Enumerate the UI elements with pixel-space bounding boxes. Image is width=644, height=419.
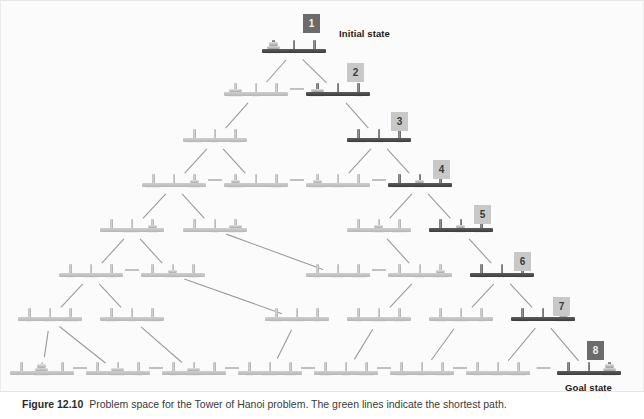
peg-base: [557, 371, 621, 375]
peg-base: [265, 317, 329, 321]
step-badge-7: 7: [553, 297, 570, 316]
peg-base: [306, 92, 370, 96]
peg-group: [142, 169, 206, 187]
hanoi-state: [429, 303, 493, 325]
peg-group: [224, 78, 288, 96]
peg-group: [390, 357, 454, 375]
edge-layer: [1, 1, 644, 392]
hanoi-state: [238, 357, 302, 379]
hanoi-state: [557, 357, 621, 379]
step-badge-8: 8: [587, 341, 604, 360]
peg-base: [183, 138, 247, 142]
disk: [37, 364, 46, 367]
peg-base: [224, 92, 288, 96]
peg-base: [390, 371, 454, 375]
peg-base: [347, 138, 411, 142]
peg-group: [10, 357, 74, 375]
hanoi-state: [388, 259, 452, 281]
hanoi-state: [265, 303, 329, 325]
figure-panel: 12345678 Initial state Goal state: [0, 0, 644, 392]
peg-base: [183, 228, 247, 232]
peg-base: [238, 371, 302, 375]
step-badge-3: 3: [391, 112, 408, 131]
step-badge-2: 2: [347, 63, 364, 82]
peg-base: [59, 273, 123, 277]
peg-group: [429, 303, 493, 321]
peg-base: [429, 317, 493, 321]
hanoi-state: [306, 259, 370, 281]
peg-group: [162, 357, 226, 375]
peg-base: [388, 183, 452, 187]
peg-group: [183, 214, 247, 232]
state-transition-edge: [44, 331, 48, 357]
figure-bottom-rule: [0, 391, 644, 392]
state-transition-edge: [508, 328, 535, 360]
peg-group: [466, 357, 530, 375]
peg-group: [59, 259, 123, 277]
hanoi-state: [224, 169, 288, 191]
state-transition-edge: [431, 329, 454, 360]
peg-group: [265, 303, 329, 321]
hanoi-state: [142, 169, 206, 191]
step-badge-4: 4: [433, 160, 450, 179]
peg-group: [347, 303, 411, 321]
hanoi-state: [347, 214, 411, 236]
peg-group: [314, 357, 378, 375]
hanoi-state: [390, 357, 454, 379]
hanoi-state: [100, 214, 164, 236]
disk: [605, 364, 614, 367]
peg-group: [388, 259, 452, 277]
peg-base: [470, 273, 534, 277]
peg-group: [306, 259, 370, 277]
state-transition-edge: [354, 329, 372, 359]
peg-group: [306, 169, 370, 187]
step-badge-6: 6: [514, 252, 531, 271]
peg-base: [511, 317, 575, 321]
figure-caption-label: Figure 12.10: [22, 398, 83, 410]
hanoi-state: [347, 303, 411, 325]
hanoi-state: [314, 357, 378, 379]
peg-base: [347, 228, 411, 232]
peg-group: [238, 357, 302, 375]
step-badge-5: 5: [474, 205, 491, 224]
hanoi-state: [86, 357, 150, 379]
figure-caption: Figure 12.10 Problem space for the Tower…: [0, 394, 644, 419]
peg-base: [306, 183, 370, 187]
hanoi-state: [10, 357, 74, 379]
hanoi-state: [466, 357, 530, 379]
peg-base: [100, 228, 164, 232]
hanoi-state: [18, 303, 82, 325]
hanoi-state: [224, 78, 288, 100]
peg-group: [86, 357, 150, 375]
peg-base: [18, 317, 82, 321]
figure-caption-text: Figure 12.10 Problem space for the Tower…: [22, 398, 507, 410]
peg-base: [429, 228, 493, 232]
step-badge-1: 1: [303, 14, 320, 33]
peg-base: [86, 371, 150, 375]
peg-base: [466, 371, 530, 375]
hanoi-state: [183, 214, 247, 236]
disk: [269, 42, 278, 45]
peg-group: [262, 35, 326, 53]
hanoi-state: [59, 259, 123, 281]
peg-base: [10, 371, 74, 375]
peg-base: [141, 273, 205, 277]
peg-base: [347, 317, 411, 321]
peg-base: [142, 183, 206, 187]
peg-group: [347, 214, 411, 232]
hanoi-state: [306, 169, 370, 191]
peg-group: [18, 303, 82, 321]
peg-base: [388, 273, 452, 277]
peg-group: [100, 303, 164, 321]
peg-group: [183, 124, 247, 142]
state-transition-edge: [277, 330, 291, 359]
peg-group: [224, 169, 288, 187]
figure-caption-body: Problem space for the Tower of Hanoi pro…: [89, 398, 507, 410]
hanoi-state: [162, 357, 226, 379]
hanoi-state: [262, 35, 326, 57]
peg-base: [224, 183, 288, 187]
peg-base: [100, 317, 164, 321]
hanoi-state: [100, 303, 164, 325]
peg-group: [100, 214, 164, 232]
peg-group: [141, 259, 205, 277]
